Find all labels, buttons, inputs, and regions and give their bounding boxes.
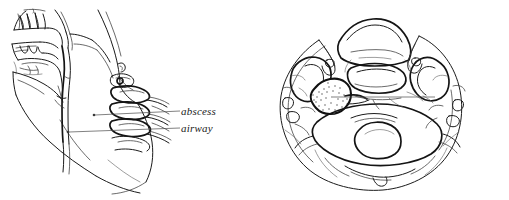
vertebral-body-group [295, 104, 460, 166]
neck-skin-contour-group [16, 95, 140, 193]
abscess-marker-dot [93, 114, 96, 117]
figure-root: abscess airway [0, 0, 509, 200]
nasal-cavity-group [14, 9, 48, 30]
posterior-skull-neck-group [98, 10, 138, 104]
tongue-and-oral-cavity-group [14, 59, 60, 75]
right-tissue-detail-group [423, 75, 465, 146]
airway-marker-dot [67, 131, 70, 134]
abscess-cavity-group [311, 79, 369, 114]
axial-view-drawing [255, 0, 509, 200]
posterior-muscles-group [315, 148, 447, 186]
palate-and-teeth-group [12, 42, 58, 60]
panel-axial-cross-section: thick-walled abscess cavity [255, 0, 509, 200]
label-abscess: abscess [181, 105, 216, 118]
airway-lumen-group [348, 64, 406, 94]
label-airway: airway [181, 122, 213, 135]
airway-column-group [55, 46, 70, 174]
mandible-group [13, 72, 63, 102]
airway-leader-line [69, 128, 180, 132]
left-tissue-detail-group [283, 75, 315, 144]
lateral-view-drawing [0, 0, 255, 200]
panel-lateral-neck-view: abscess airway [0, 0, 255, 200]
prevertebral-soft-tissue-group [70, 34, 113, 78]
mandible-cross-section-group [338, 19, 411, 66]
